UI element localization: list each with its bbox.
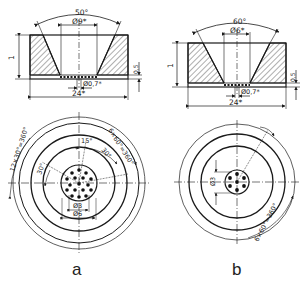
overall-width-label: 24* [229,98,243,107]
overall-width-label: 24* [72,89,86,98]
angle-30-label-b: 30° [35,162,46,176]
outer-diameter-label: Ø6 [73,210,82,218]
angle-15-label: 15° [81,137,93,145]
cone-angle-label: 60° [233,17,247,26]
section-view-b [172,23,300,109]
caption-a: a [72,260,81,280]
height-label: 1 [7,55,16,60]
bottom-layer-label: 0,5 [132,64,139,74]
height-label: 1 [166,63,175,68]
cone-angle-label: 50° [75,8,89,17]
hole-diameter-label: Ø0,7* [83,80,102,88]
technical-drawing: 50° Ø9* 1 0,5 Ø0,7* 24* [0,0,304,290]
outer-pattern-label: 12×30°=360° [8,126,30,173]
top-diameter-label: Ø6* [230,26,245,35]
inner-diameter-label: Ø3 [73,202,82,210]
section-view-a [15,15,142,101]
bottom-layer-label: 0,5 [289,72,296,82]
inner-diameter-label: Ø3 [209,177,217,186]
hole-diameter-label: Ø0,7* [241,88,260,96]
top-diameter-label: Ø9* [72,17,87,26]
caption-b: b [232,260,241,280]
